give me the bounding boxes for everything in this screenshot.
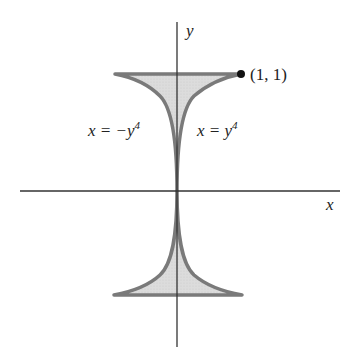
region-diagram: y x (1, 1) x = −y4 x = y4 — [0, 0, 356, 364]
lower-shaded-region — [114, 191, 242, 295]
point-label: (1, 1) — [250, 65, 287, 84]
point-marker — [237, 70, 245, 78]
y-axis-label: y — [184, 21, 194, 40]
left-curve-label: x = −y4 — [87, 119, 141, 140]
right-curve-label: x = y4 — [196, 119, 238, 140]
x-axis-label: x — [325, 195, 334, 214]
